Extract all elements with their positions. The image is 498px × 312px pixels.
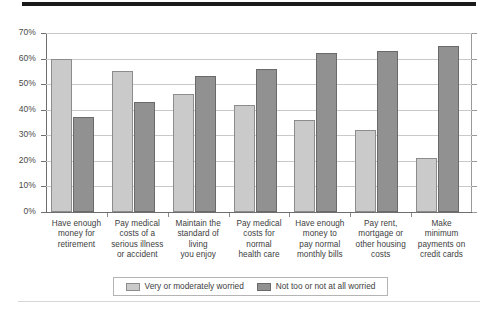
- y-axis-tick-mark-right: [472, 186, 477, 187]
- y-axis-tick-mark-right: [472, 161, 477, 162]
- y-axis-tick-mark-right: [472, 33, 477, 34]
- x-axis-separator-tick: [289, 213, 290, 217]
- y-axis-tick-label: 0%: [0, 207, 36, 216]
- y-axis-tick-label: 50%: [0, 79, 36, 88]
- x-axis-category-label: Pay rent,mortgage orother housingcosts: [352, 219, 410, 261]
- chart-legend: Very or moderately worriedNot too or not…: [113, 277, 388, 296]
- y-axis-tick-mark-right: [472, 84, 477, 85]
- x-axis-category-label: Pay medicalcosts fornormalhealth care: [230, 219, 288, 261]
- y-axis-tick-label: 40%: [0, 105, 36, 114]
- bar-group: [46, 33, 107, 212]
- legend-swatch: [126, 283, 140, 291]
- x-axis-category-label: Makeminimumpayments oncredit cards: [413, 219, 471, 261]
- y-axis-tick-label: 70%: [0, 28, 36, 37]
- bar-group: [229, 33, 290, 212]
- legend-item: Very or moderately worried: [126, 282, 244, 291]
- bar: [438, 46, 459, 212]
- bar-group: [411, 33, 472, 212]
- bar: [234, 105, 255, 212]
- y-axis-tick-mark-right: [472, 135, 477, 136]
- y-axis-tick-label: 60%: [0, 54, 36, 63]
- y-axis-tick-label: 20%: [0, 156, 36, 165]
- plot-area: [46, 33, 472, 212]
- legend-label: Not too or not at all worried: [276, 282, 376, 291]
- bar: [416, 158, 437, 212]
- x-axis-separator-tick: [107, 213, 108, 217]
- bar: [51, 59, 72, 212]
- y-axis-tick-mark-right: [472, 212, 477, 213]
- bar: [294, 120, 315, 212]
- bar: [134, 102, 155, 212]
- legend-label: Very or moderately worried: [145, 282, 244, 291]
- bar-group: [289, 33, 350, 212]
- bar: [377, 51, 398, 212]
- bar: [73, 117, 94, 212]
- gridline: [46, 212, 472, 213]
- x-axis-category-label: Pay medicalcosts of aserious illnessor a…: [108, 219, 166, 261]
- y-axis-tick-label: 10%: [0, 181, 36, 190]
- bar: [112, 71, 133, 212]
- bar: [173, 94, 194, 212]
- x-axis-separator-tick: [350, 213, 351, 217]
- x-axis-separator-tick: [168, 213, 169, 217]
- x-axis-category-label: Maintain thestandard oflivingyou enjoy: [169, 219, 227, 261]
- x-axis-separator-tick: [229, 213, 230, 217]
- y-axis-tick-mark-right: [472, 59, 477, 60]
- x-axis-separator-tick: [411, 213, 412, 217]
- bar: [256, 69, 277, 212]
- legend-swatch: [257, 283, 271, 291]
- bar-group: [107, 33, 168, 212]
- x-axis-category-label: Have enoughmoney topay normalmonthly bil…: [291, 219, 349, 261]
- bottom-divider-rule: [18, 301, 480, 302]
- bar-group: [168, 33, 229, 212]
- grouped-bar-chart: 0%10%20%30%40%50%60%70% Have enoughmoney…: [0, 0, 498, 312]
- bar: [355, 130, 376, 212]
- y-axis-tick-label: 30%: [0, 130, 36, 139]
- x-axis-category-label: Have enoughmoney forretirement: [47, 219, 105, 250]
- bar-group: [350, 33, 411, 212]
- y-axis-tick-mark: [41, 212, 46, 213]
- y-axis-tick-mark-right: [472, 110, 477, 111]
- bar: [316, 53, 337, 212]
- bar: [195, 76, 216, 212]
- legend-item: Not too or not at all worried: [257, 282, 376, 291]
